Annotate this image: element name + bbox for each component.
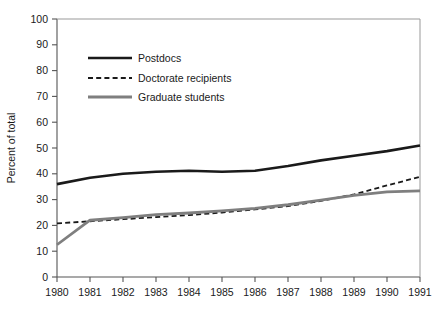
- line-chart: 0102030405060708090100 19801981198219831…: [0, 0, 442, 319]
- y-tick-label: 90: [36, 38, 48, 50]
- y-tick-label: 60: [36, 116, 48, 128]
- y-tick-label: 10: [36, 245, 48, 257]
- x-tick-label: 1983: [144, 286, 168, 298]
- x-tick-label: 1991: [408, 286, 432, 298]
- y-tick-label: 40: [36, 167, 48, 179]
- y-tick-label: 80: [36, 64, 48, 76]
- x-axis-ticks: 1980198119821983198419851986198719881989…: [45, 277, 432, 298]
- x-tick-label: 1988: [309, 286, 333, 298]
- y-tick-label: 20: [36, 219, 48, 231]
- x-tick-label: 1990: [375, 286, 399, 298]
- x-tick-label: 1987: [276, 286, 300, 298]
- chart-figure: 0102030405060708090100 19801981198219831…: [0, 0, 442, 319]
- y-tick-label: 30: [36, 193, 48, 205]
- x-tick-label: 1984: [177, 286, 201, 298]
- data-series-group: [57, 145, 420, 244]
- x-tick-label: 1981: [78, 286, 102, 298]
- x-tick-label: 1989: [342, 286, 366, 298]
- y-tick-label: 50: [36, 142, 48, 154]
- y-axis-label: Percent of total: [5, 113, 17, 184]
- series-line: [57, 145, 420, 184]
- series-line: [57, 177, 420, 223]
- y-tick-label: 100: [30, 13, 48, 25]
- y-axis-ticks: 0102030405060708090100: [30, 13, 57, 283]
- legend-label: Postdocs: [138, 52, 181, 64]
- series-line: [57, 191, 420, 245]
- chart-legend: PostdocsDoctorate recipientsGraduate stu…: [88, 52, 231, 103]
- x-tick-label: 1985: [210, 286, 234, 298]
- x-tick-label: 1982: [111, 286, 135, 298]
- y-tick-label: 0: [42, 271, 48, 283]
- x-tick-label: 1986: [243, 286, 267, 298]
- y-tick-label: 70: [36, 90, 48, 102]
- legend-label: Graduate students: [138, 91, 224, 103]
- legend-label: Doctorate recipients: [138, 72, 231, 84]
- x-tick-label: 1980: [45, 286, 69, 298]
